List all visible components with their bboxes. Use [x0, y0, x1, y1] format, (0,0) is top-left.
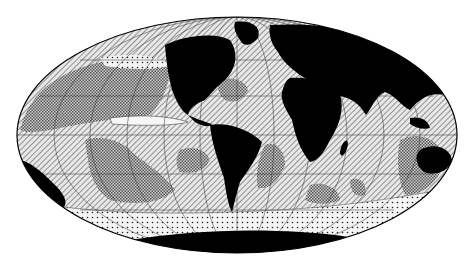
globe-interior — [0, 0, 470, 265]
world-sediment-map — [0, 0, 470, 265]
